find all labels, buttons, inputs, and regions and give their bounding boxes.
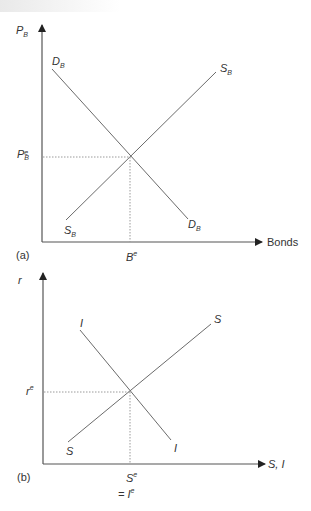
investment-curve [80, 330, 171, 440]
investment-curve-label-top: I [80, 318, 83, 329]
equilibrium-investment-label: = Ie [118, 487, 134, 500]
bond-demand-curve [52, 69, 188, 219]
supply-curve-label-bottom: SB [64, 225, 76, 238]
panel-b-x-axis-label: S, I [268, 459, 285, 470]
panel-a-chart [42, 25, 262, 242]
equilibrium-rate-label: re [26, 384, 34, 397]
panel-a-y-axis-label: PB [16, 25, 28, 38]
saving-curve-label-bottom: S [66, 446, 73, 457]
saving-curve-label-top: S [214, 314, 221, 325]
panel-a-x-axis-label: Bonds [267, 237, 298, 248]
panel-a-label: (a) [16, 250, 29, 261]
demand-curve-label-bottom: DB [188, 219, 201, 232]
equilibrium-price-label: PeB [17, 149, 29, 161]
investment-curve-label-bottom: I [174, 443, 177, 454]
bond-supply-curve [66, 72, 216, 220]
equilibrium-quantity-label: Be [126, 250, 137, 263]
supply-curve-label-top: SB [220, 63, 232, 76]
demand-curve-label-top: DB [52, 56, 65, 69]
panel-b-y-axis-label: r [18, 275, 22, 286]
equilibrium-saving-label: Se [126, 471, 137, 484]
panel-b-label: (b) [17, 472, 30, 483]
panel-b-chart [43, 273, 265, 464]
bond-and-loanable-funds-diagram [0, 0, 311, 511]
